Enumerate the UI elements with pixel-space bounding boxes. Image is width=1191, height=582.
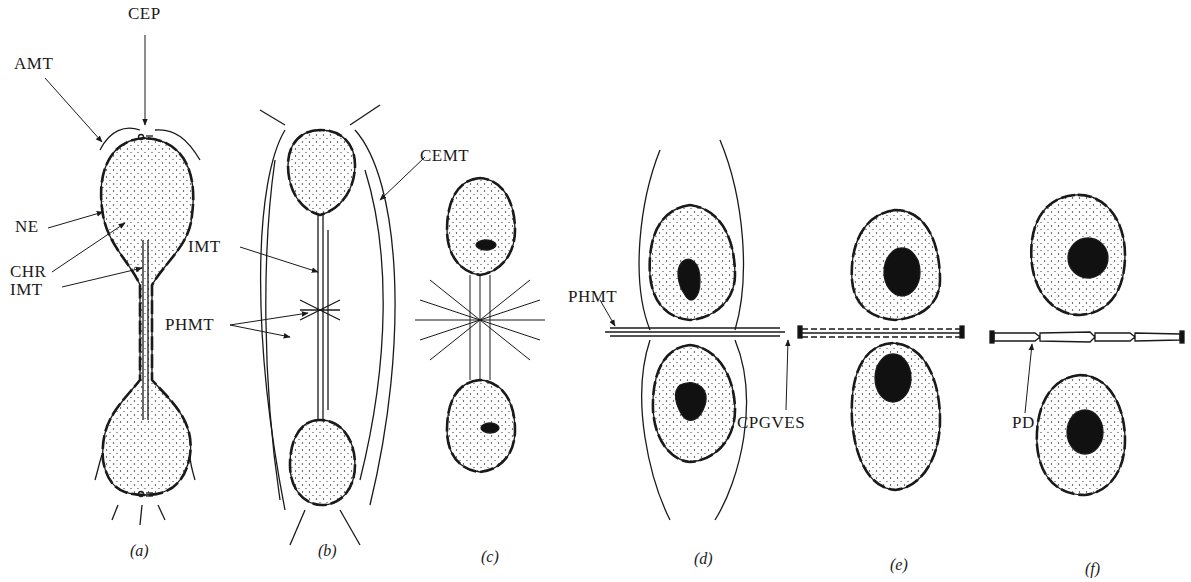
label-amt: AMT: [14, 54, 53, 74]
caption-d: (d): [694, 550, 713, 568]
label-ne: NE: [15, 217, 39, 237]
panel-e-cell: [798, 210, 964, 490]
caption-e: (e): [890, 556, 908, 574]
label-pd: PD: [1012, 413, 1035, 433]
caption-c: (c): [481, 548, 499, 566]
label-cpgves: CPGVES: [737, 413, 805, 433]
label-phmt-b: PHMT: [165, 315, 214, 335]
label-imt-a: IMT: [10, 280, 43, 300]
panel-c-cell: [415, 178, 545, 472]
caption-f: (f): [1085, 560, 1100, 578]
panel-d-cell: [605, 140, 785, 520]
caption-b: (b): [318, 542, 337, 560]
panel-f-cell: [990, 195, 1184, 495]
label-phmt-d: PHMT: [568, 287, 617, 307]
label-imt-b: IMT: [188, 237, 221, 257]
panel-b-cell: [260, 105, 395, 545]
label-cemt: CEMT: [420, 146, 469, 166]
caption-a: (a): [130, 542, 149, 560]
label-cep: CEP: [128, 4, 161, 24]
label-chr: CHR: [10, 262, 46, 282]
